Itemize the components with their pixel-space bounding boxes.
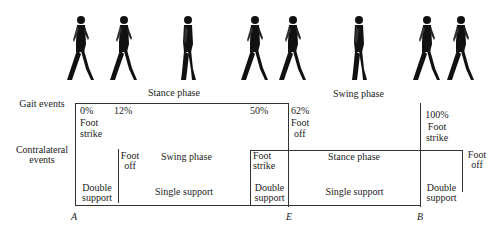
walking-person-icon — [276, 14, 306, 86]
walking-person-icon — [343, 14, 373, 86]
walking-person-icon — [444, 14, 474, 86]
contralateral-foot-off-2: Foot off — [464, 150, 490, 170]
single-support-2: Single support — [289, 187, 420, 197]
point-b-label: B — [417, 212, 423, 222]
stance-phase-heading: Stance phase — [148, 88, 200, 98]
gait-event-50pct: 50% — [250, 106, 268, 116]
point-e-label: E — [286, 212, 292, 222]
contralateral-label-line2: events — [12, 155, 72, 165]
gait-event-62pct: 62% Foot off — [291, 106, 309, 139]
double-support-2: Double support — [251, 183, 288, 203]
contralateral-foot-off-1: Foot off — [120, 151, 140, 171]
gait-events-label: Gait events — [14, 99, 70, 109]
walking-person-icon — [410, 14, 440, 86]
gait-event-0pct: 0% Foot strike — [80, 106, 102, 139]
bottom-axis-line — [75, 205, 420, 206]
contralateral-stance-phase: Stance phase — [288, 152, 420, 162]
contralateral-events-label: Contralateral events — [12, 145, 72, 165]
contralateral-foot-strike: Foot strike — [253, 151, 275, 171]
single-support-1: Single support — [118, 187, 250, 197]
gait-events-top-line — [75, 103, 288, 104]
double-support-3: Double support — [421, 183, 462, 203]
contralateral-swing-phase: Swing phase — [161, 152, 212, 162]
double-support-1: Double support — [76, 183, 118, 203]
walking-person-icon — [238, 14, 268, 86]
point-a-label: A — [71, 212, 77, 222]
right-edge-line — [462, 150, 463, 192]
walking-person-icon — [172, 14, 202, 86]
walking-person-icon — [64, 14, 94, 86]
gait-event-100pct: 100% Foot strike — [424, 110, 450, 143]
gait-event-12pct: 12% — [114, 106, 132, 116]
swing-phase-heading: Swing phase — [333, 89, 384, 99]
walking-person-icon — [107, 14, 137, 86]
